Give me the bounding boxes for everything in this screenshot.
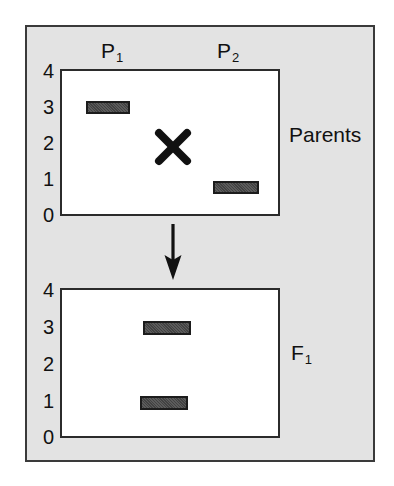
lane-header-p1: P1 — [101, 40, 122, 61]
f1-axis-tick-3: 3 — [32, 317, 54, 337]
parents-axis-tick-3: 3 — [32, 97, 54, 117]
f1-axis-tick-4: 4 — [32, 280, 54, 300]
figure-root: P1 P2 4 3 2 1 0 Parents 4 3 2 1 0 F1 — [0, 0, 394, 486]
generation-label-f1-text: F — [291, 341, 304, 364]
down-arrow-icon — [156, 222, 190, 282]
generation-label-f1-sub: 1 — [305, 352, 312, 367]
f1-axis-tick-0: 0 — [32, 427, 54, 447]
lane-header-p2: P2 — [217, 40, 238, 61]
lane-header-p1-sub: 1 — [116, 50, 123, 65]
generation-label-f1: F1 — [291, 342, 311, 363]
lane-header-p2-sub: 2 — [232, 50, 239, 65]
parents-axis-tick-1: 1 — [32, 169, 54, 189]
generation-label-parents-text: Parents — [289, 123, 361, 146]
band-p1-level-3 — [86, 101, 130, 114]
parents-axis-tick-0: 0 — [32, 205, 54, 225]
f1-axis-tick-2: 2 — [32, 354, 54, 374]
band-p2-level-1 — [213, 181, 259, 194]
parents-axis-tick-4: 4 — [32, 61, 54, 81]
band-f1-level-1 — [140, 396, 188, 410]
f1-plot-box — [60, 288, 280, 438]
parents-axis-tick-2: 2 — [32, 133, 54, 153]
band-f1-level-3 — [143, 321, 191, 335]
lane-header-p2-text: P — [217, 39, 231, 62]
lane-header-p1-text: P — [101, 39, 115, 62]
generation-label-parents: Parents — [289, 124, 361, 145]
cross-symbol-icon — [152, 126, 194, 168]
f1-axis-tick-1: 1 — [32, 391, 54, 411]
